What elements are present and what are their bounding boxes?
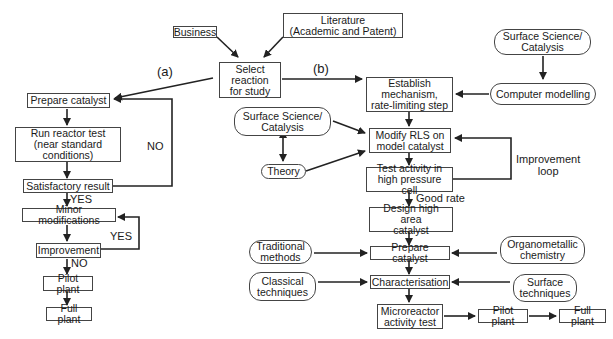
a-minor-modifications-box: Minor modifications: [22, 208, 116, 222]
b-design-high-area-box: Design high area catalyst: [369, 207, 453, 232]
b-surface-techniques-node: Surface techniques: [513, 274, 577, 302]
branch-label-b: (b): [313, 63, 329, 75]
a-full-plant-box: Full plant: [46, 307, 92, 321]
a-improvement-box: Improvement: [36, 243, 101, 258]
branch-label-a: (a): [157, 66, 173, 78]
literature-box: Literature (Academic and Patent): [283, 13, 403, 38]
b-organometallic-node: Organometallic chemistry: [500, 236, 585, 264]
a-no-loop-label: NO: [147, 140, 164, 152]
select-reaction-box: Select reaction for study: [219, 62, 281, 98]
b-characterisation-box: Characterisation: [370, 275, 450, 289]
b-traditional-methods-node: Traditional methods: [249, 240, 312, 264]
b-prepare-catalyst-box: Prepare catalyst: [370, 246, 450, 260]
a-satisfactory-result-box: Satisfactory result: [23, 179, 113, 193]
a-prepare-catalyst-box: Prepare catalyst: [27, 93, 110, 108]
b-establish-mechanism-box: Establish mechanism, rate-limiting step: [366, 77, 453, 112]
business-box: Business: [173, 26, 217, 38]
b-pilot-plant-box: Pilot plant: [478, 309, 528, 323]
b-modify-rls-box: Modify RLS on model catalyst: [369, 128, 451, 153]
a-no-improvement-label: NO: [71, 257, 88, 269]
b-full-plant-box: Full plant: [559, 309, 606, 323]
a-yes-improvement-label: YES: [110, 230, 132, 242]
b-improvement-loop-label: Improvement loop: [516, 153, 580, 177]
a-pilot-plant-box: Pilot plant: [43, 276, 93, 291]
b-classical-techniques-node: Classical techniques: [249, 272, 316, 301]
b-microreactor-box: Microreactor activity test: [377, 304, 443, 329]
b-surface-science-top-node: Surface Science/ Catalysis: [494, 29, 591, 55]
a-run-reactor-test-box: Run reactor test (near standard conditio…: [15, 127, 121, 162]
b-surface-science-mid-node: Surface Science/ Catalysis: [234, 107, 331, 136]
b-test-activity-box: Test activity in high pressure cell: [366, 167, 453, 192]
b-computer-modelling-node: Computer modelling: [490, 83, 596, 105]
b-theory-node: Theory: [261, 164, 306, 179]
